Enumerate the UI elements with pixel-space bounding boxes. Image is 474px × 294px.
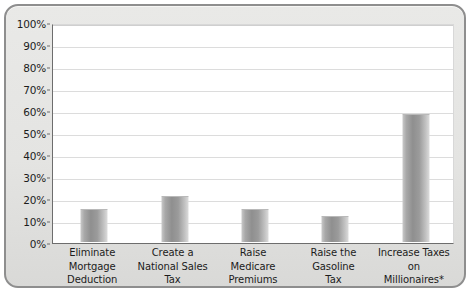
x-axis-labels: EliminateMortgageDeductionCreate aNation… <box>52 246 454 290</box>
y-axis-tick-label: 50% <box>23 128 46 140</box>
bar-slot <box>54 25 134 242</box>
bar[interactable] <box>81 209 108 242</box>
x-axis-label-line: Raise <box>213 246 293 260</box>
x-axis-category-label: EliminateMortgageDeduction <box>52 246 132 287</box>
y-axis-tick-label: 80% <box>23 62 46 74</box>
y-axis-tick-mark <box>47 200 50 201</box>
plot-area <box>52 24 454 244</box>
chart-frame: 100%90%80%70%60%50%40%30%20%10%0% Elimin… <box>4 4 466 288</box>
y-axis-tick-label: 60% <box>23 106 46 118</box>
bar[interactable] <box>322 216 349 242</box>
y-axis-tick-label: 20% <box>23 194 46 206</box>
bar[interactable] <box>241 209 268 242</box>
x-axis-label-line: Mortgage <box>52 260 132 274</box>
x-axis-category-label: Create aNational SalesTax <box>132 246 212 287</box>
x-axis-label-line: Tax <box>293 273 373 287</box>
y-axis: 100%90%80%70%60%50%40%30%20%10%0% <box>6 24 50 244</box>
x-axis-label-line: Medicare <box>213 260 293 274</box>
y-axis-tick-label: 30% <box>23 172 46 184</box>
y-axis-tick-mark <box>47 46 50 47</box>
y-axis-tick-mark <box>47 178 50 179</box>
y-axis-tick-label: 40% <box>23 150 46 162</box>
x-axis-label-line: Increase Taxes <box>374 246 454 260</box>
y-axis-tick-mark <box>47 222 50 223</box>
bars-layer <box>54 25 453 242</box>
bar-slot <box>295 25 375 242</box>
y-axis-tick-label: 70% <box>23 84 46 96</box>
y-axis-tick-mark <box>47 156 50 157</box>
bar[interactable] <box>402 114 429 242</box>
bar-slot <box>215 25 295 242</box>
x-axis-label-line: Raise the <box>293 246 373 260</box>
x-axis-category-label: Increase TaxesonMillionaires* <box>374 246 454 287</box>
y-axis-tick-mark <box>47 90 50 91</box>
x-axis-label-line: Eliminate <box>52 246 132 260</box>
y-axis-tick-mark <box>47 24 50 25</box>
y-axis-tick-mark <box>47 68 50 69</box>
y-axis-tick-label: 10% <box>23 216 46 228</box>
bar[interactable] <box>161 196 188 242</box>
x-axis-label-line: Premiums <box>213 273 293 287</box>
x-axis-category-label: Raise theGasolineTax <box>293 246 373 287</box>
y-axis-tick-mark <box>47 112 50 113</box>
y-axis-tick-label: 100% <box>17 18 46 30</box>
x-axis-label-line: National Sales <box>132 260 212 274</box>
bar-slot <box>134 25 214 242</box>
x-axis-label-line: Tax <box>132 273 212 287</box>
x-axis-label-line: Millionaires* <box>374 273 454 287</box>
x-axis-label-line: on <box>374 260 454 274</box>
y-axis-tick-mark <box>47 244 50 245</box>
y-axis-tick-label: 90% <box>23 40 46 52</box>
y-axis-tick-label: 0% <box>30 238 46 250</box>
x-axis-label-line: Deduction <box>52 273 132 287</box>
plot-wrapper <box>52 24 454 244</box>
bar-slot <box>376 25 456 242</box>
x-axis-category-label: RaiseMedicarePremiums <box>213 246 293 287</box>
x-axis-label-line: Gasoline <box>293 260 373 274</box>
x-axis-label-line: Create a <box>132 246 212 260</box>
y-axis-tick-mark <box>47 134 50 135</box>
